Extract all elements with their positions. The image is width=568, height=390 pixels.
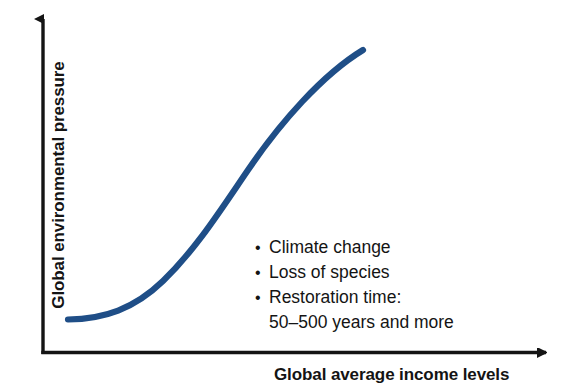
annotation-restoration-time: Restoration time: xyxy=(269,285,515,310)
bullet-icon: • xyxy=(255,235,269,260)
y-axis-label: Global environmental pressure xyxy=(49,15,69,355)
annotation-list: • Climate change • Loss of species • Res… xyxy=(255,235,515,335)
annotation-climate-change: Climate change xyxy=(269,235,515,260)
list-item: • Climate change xyxy=(255,235,515,260)
bullet-icon: • xyxy=(255,285,269,310)
annotation-loss-of-species: Loss of species xyxy=(269,260,515,285)
list-item: • Loss of species xyxy=(255,260,515,285)
chart-figure: Global environmental pressure Global ave… xyxy=(0,0,568,390)
list-item: • Restoration time: xyxy=(255,285,515,310)
annotation-restoration-time-detail: 50–500 years and more xyxy=(255,310,515,335)
bullet-icon: • xyxy=(255,260,269,285)
x-axis-label: Global average income levels xyxy=(274,365,509,385)
